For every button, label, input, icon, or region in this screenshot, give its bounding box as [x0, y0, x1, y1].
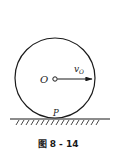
center-label: O [40, 74, 48, 85]
center-point [53, 77, 57, 81]
contact-point-label: P [52, 108, 59, 118]
figure-caption: 图 8 - 14 [38, 139, 79, 149]
velocity-subscript: O [79, 68, 84, 75]
rolling-disk-diagram: O v O P 图 8 - 14 [0, 0, 116, 160]
ground-hatching [16, 120, 99, 125]
